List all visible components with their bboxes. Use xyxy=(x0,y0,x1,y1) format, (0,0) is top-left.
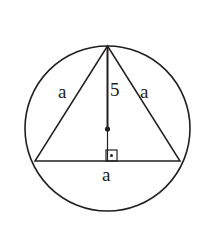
label-side-right: a xyxy=(140,82,148,101)
geometry-figure-canvas: a 5 a a xyxy=(0,0,208,244)
right-angle-dot xyxy=(110,154,113,157)
circle-center-point xyxy=(105,126,110,131)
label-altitude-length: 5 xyxy=(110,80,120,99)
label-base: a xyxy=(102,165,110,184)
geometry-diagram-svg xyxy=(0,0,208,244)
label-side-left: a xyxy=(58,82,66,101)
